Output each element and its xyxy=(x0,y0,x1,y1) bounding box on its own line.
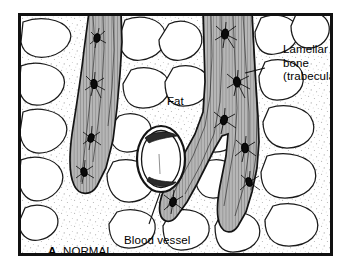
label-lamellar-line2: bone xyxy=(283,57,333,71)
panel-caption: A. NORMAL xyxy=(48,245,113,256)
label-blood-vessel: Blood vessel xyxy=(124,234,190,248)
figure-panel-normal-bone: Lamellar bone (trabecula) Fat Blood vess… xyxy=(0,0,351,275)
fat-cell xyxy=(123,68,169,108)
fat-cell xyxy=(261,154,316,198)
fat-cell xyxy=(263,106,314,148)
illustration-frame: Lamellar bone (trabecula) Fat Blood vess… xyxy=(18,13,333,256)
panel-letter: A. xyxy=(48,245,60,256)
label-lamellar-line3: (trabecula) xyxy=(283,70,333,84)
blood-vessel xyxy=(137,126,185,192)
label-lamellar-bone: Lamellar bone (trabecula) xyxy=(283,43,333,84)
label-fat: Fat xyxy=(167,95,184,109)
fat-cell xyxy=(265,204,318,246)
panel-caption-text: NORMAL xyxy=(63,245,113,256)
label-lamellar-line1: Lamellar xyxy=(283,43,333,57)
